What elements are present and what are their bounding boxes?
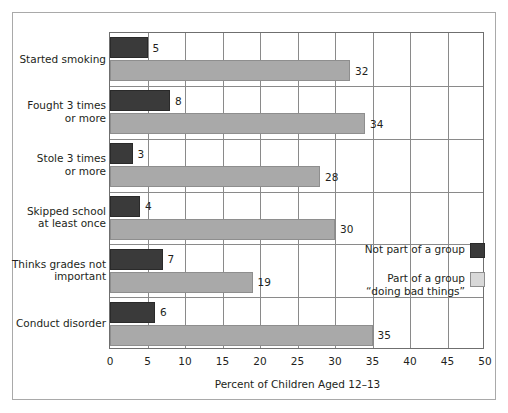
bar-value-label: 5 — [153, 43, 160, 54]
bar-value-label: 19 — [258, 277, 271, 288]
bar-group: 430 — [110, 192, 483, 245]
category-label: Fought 3 times or more — [0, 99, 106, 124]
x-tick-label: 40 — [403, 355, 416, 367]
bar-value-label: 8 — [175, 96, 182, 107]
category-label: Stole 3 times or more — [0, 152, 106, 177]
bar-light — [110, 113, 365, 134]
bar-dark — [110, 302, 155, 323]
x-tick-label: 15 — [216, 355, 229, 367]
bar-value-label: 30 — [340, 224, 353, 235]
x-axis-title: Percent of Children Aged 12–13 — [110, 378, 485, 390]
category-label: Conduct disorder — [0, 317, 106, 330]
x-tick-label: 20 — [253, 355, 266, 367]
x-tick-label: 50 — [478, 355, 491, 367]
bar-group: 635 — [110, 297, 483, 350]
bar-light — [110, 219, 335, 240]
bar-dark — [110, 90, 170, 111]
bar-dark — [110, 143, 133, 164]
legend-label: Not part of a group — [365, 242, 465, 256]
x-tick-label: 35 — [366, 355, 379, 367]
bar-light — [110, 272, 253, 293]
x-tick-label: 0 — [107, 355, 114, 367]
bar-group: 834 — [110, 86, 483, 139]
bar-value-label: 34 — [370, 119, 383, 130]
x-tick-label: 45 — [441, 355, 454, 367]
category-axis-labels: Started smokingFought 3 times or moreSto… — [0, 33, 106, 348]
category-label: Started smoking — [0, 53, 106, 66]
x-tick-label: 30 — [328, 355, 341, 367]
bar-group: 532 — [110, 33, 483, 86]
legend-label: Part of a group “doing bad things” — [366, 271, 465, 297]
bar-dark — [110, 249, 163, 270]
legend-swatch — [470, 272, 485, 287]
x-tick-label: 25 — [291, 355, 304, 367]
x-tick-label: 5 — [144, 355, 151, 367]
bar-value-label: 6 — [160, 307, 167, 318]
bar-group: 328 — [110, 139, 483, 192]
legend-item: Not part of a group — [310, 242, 485, 258]
bar-light — [110, 325, 373, 346]
chart-legend: Not part of a groupPart of a group “doin… — [310, 242, 485, 297]
bar-dark — [110, 196, 140, 217]
bar-value-label: 28 — [325, 172, 338, 183]
bar-value-label: 3 — [138, 149, 145, 160]
category-label: Skipped school at least once — [0, 205, 106, 230]
x-tick-label: 10 — [178, 355, 191, 367]
bar-light — [110, 166, 320, 187]
chart-figure: Started smokingFought 3 times or moreSto… — [12, 12, 496, 400]
category-label: Thinks grades not important — [0, 258, 106, 283]
legend-item: Part of a group “doing bad things” — [310, 271, 485, 297]
bar-dark — [110, 37, 148, 58]
bar-light — [110, 60, 350, 81]
bar-value-label: 35 — [378, 330, 391, 341]
bar-value-label: 4 — [145, 201, 152, 212]
bar-value-label: 32 — [355, 66, 368, 77]
bar-value-label: 7 — [168, 254, 175, 265]
plot-area: Started smokingFought 3 times or moreSto… — [109, 32, 484, 349]
legend-swatch — [470, 243, 485, 258]
